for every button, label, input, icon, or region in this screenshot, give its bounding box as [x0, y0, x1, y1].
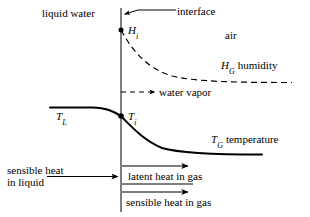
air-label: air — [225, 29, 237, 41]
sensible-heat-in-liquid-line1: sensible heat — [7, 164, 64, 176]
interface-humidity-label: Hi — [128, 24, 138, 41]
liquid-water-label: liquid water — [42, 7, 95, 19]
latent-heat-in-gas-label: latent heat in gas — [128, 170, 202, 182]
gas-humidity-subscript: G — [229, 67, 235, 76]
interface-profile-diagram: liquid water interface air Hi HGhumidity… — [0, 0, 310, 217]
gas-humidity-symbol: H — [221, 59, 229, 71]
water-vapor-label: water vapor — [159, 86, 211, 98]
gas-temperature-label: TGtemperature — [211, 133, 278, 150]
interface-temperature-label: Ti — [128, 110, 136, 127]
gas-temperature-subscript: G — [217, 141, 223, 150]
gas-temperature-word: temperature — [226, 133, 279, 145]
gas-humidity-label: HGhumidity — [221, 59, 277, 76]
interface-humidity-symbol: H — [128, 24, 136, 36]
liquid-temperature-label: TL — [56, 110, 67, 127]
interface-pointer-arrow — [125, 10, 177, 14]
liquid-temperature-subscript: L — [62, 118, 66, 127]
sensible-heat-in-liquid-line2: in liquid — [7, 176, 64, 188]
interface-temperature-point — [118, 113, 124, 119]
sensible-heat-in-gas-label: sensible heat in gas — [126, 196, 211, 208]
interface-temperature-subscript: i — [134, 118, 136, 127]
interface-humidity-point — [119, 28, 124, 33]
interface-humidity-subscript: i — [136, 32, 138, 41]
sensible-heat-in-liquid-label: sensible heat in liquid — [7, 164, 64, 188]
gas-humidity-word: humidity — [238, 59, 278, 71]
interface-label: interface — [177, 5, 215, 17]
